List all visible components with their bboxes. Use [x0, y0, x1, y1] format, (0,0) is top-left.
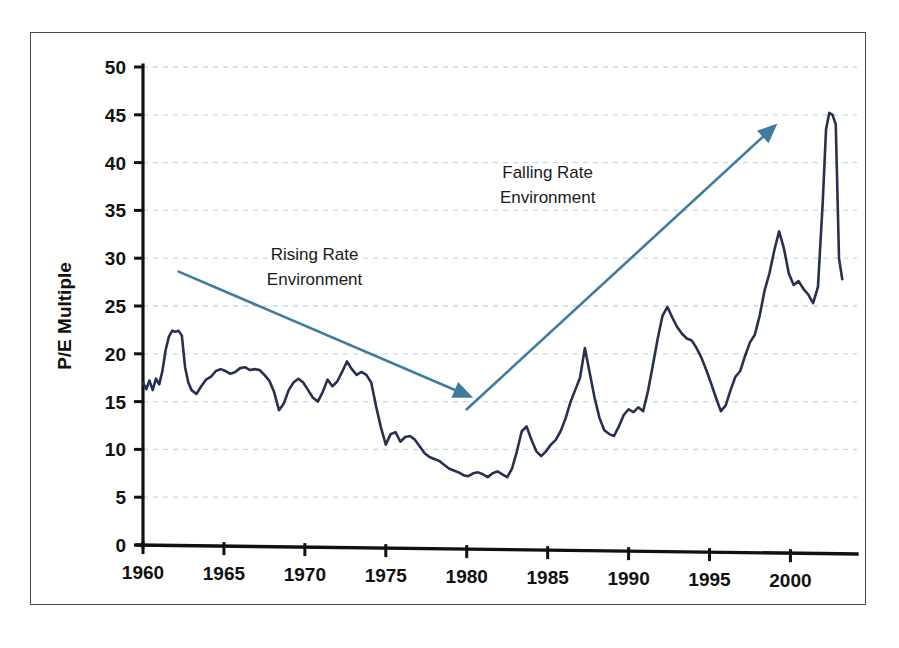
x-tick-label-1970: 1970 [284, 564, 326, 585]
x-tick-label-1965: 1965 [203, 563, 246, 584]
cropped-title-fragment [0, 0, 899, 5]
x-axis-line [137, 545, 857, 554]
y-tick-label-10: 10 [105, 439, 126, 460]
x-tick-label-1995: 1995 [688, 569, 731, 590]
y-tick-label-50: 50 [105, 57, 126, 78]
x-tick-label-1990: 1990 [607, 568, 649, 589]
x-tick-label-1985: 1985 [527, 567, 570, 588]
y-tick-label-45: 45 [105, 105, 127, 126]
y-tick-label-35: 35 [105, 200, 127, 221]
y-tick-label-30: 30 [105, 248, 126, 269]
x-tick-label-1980: 1980 [446, 566, 488, 587]
y-tick-label-20: 20 [105, 344, 126, 365]
pe-multiple-line-chart: 0510152025303540455019601965197019751980… [31, 33, 867, 606]
annotation-label-falling-rate-line-0: Falling Rate [502, 163, 593, 182]
annotation-label-rising-rate-line-0: Rising Rate [271, 245, 359, 264]
x-tick-label-1975: 1975 [365, 565, 408, 586]
x-tick-label-2000: 2000 [769, 570, 811, 591]
annotation-label-rising-rate-line-1: Environment [267, 270, 363, 289]
annotation-label-falling-rate-line-1: Environment [500, 188, 596, 207]
y-tick-label-15: 15 [105, 392, 127, 413]
series-line-0 [143, 113, 842, 477]
x-tick-label-1960: 1960 [122, 562, 164, 583]
annotation-arrow-line-rising-rate [179, 272, 459, 392]
y-tick-label-0: 0 [115, 535, 126, 556]
y-tick-label-25: 25 [105, 296, 127, 317]
y-axis-title: P/E Multiple [54, 262, 75, 370]
figure-canvas: 0510152025303540455019601965197019751980… [0, 0, 899, 648]
y-tick-label-5: 5 [115, 487, 126, 508]
y-tick-label-40: 40 [105, 153, 126, 174]
chart-frame: 0510152025303540455019601965197019751980… [30, 32, 866, 605]
